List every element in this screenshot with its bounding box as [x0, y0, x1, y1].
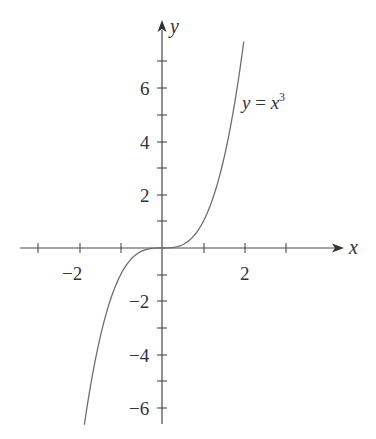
y-tick-label: −6 — [129, 398, 149, 419]
y-axis-label: y — [168, 15, 179, 38]
x-axis: x — [20, 236, 358, 258]
y-tick-label: −4 — [129, 345, 150, 366]
y-tick-label: 4 — [140, 132, 150, 153]
x-axis-label: x — [348, 236, 358, 258]
y-tick-label: 2 — [140, 185, 150, 206]
eq-exponent: 3 — [279, 90, 285, 104]
curve-equation-label: y = x3 — [240, 90, 285, 113]
eq-equals: = — [250, 92, 270, 113]
y-axis: y — [158, 15, 180, 424]
cubic-function-plot: x y −2 2 6 4 2 −2 −4 −6 — [0, 0, 376, 439]
x-tick-label: −2 — [62, 263, 82, 284]
y-tick-label: 6 — [140, 78, 150, 99]
cubic-curve — [84, 42, 243, 425]
y-tick-label: −2 — [129, 291, 149, 312]
x-tick-label: 2 — [240, 263, 250, 284]
eq-y: y — [240, 92, 251, 113]
